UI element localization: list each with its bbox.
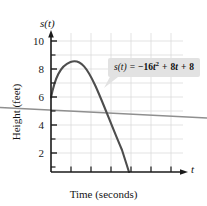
- callout-plus-one: +: [162, 62, 167, 72]
- y-axis-title: Height (feet): [10, 69, 22, 155]
- plot-canvas: [0, 0, 207, 206]
- y-tick-label-8: 8: [26, 63, 44, 75]
- y-tick-label-6: 6: [26, 91, 44, 103]
- parabola-curve: [51, 61, 129, 172]
- graph-figure: 10 8 6 4 2 s(t) Height (feet) t Time (se…: [0, 0, 207, 206]
- x-axis-arrow: [180, 169, 188, 175]
- grid-vertical: [71, 33, 171, 172]
- callout-linear-variable: t: [175, 62, 178, 72]
- equation-callout: s(t)=−16t2+8t+8: [108, 58, 200, 77]
- callout-quadratic-coefficient: −16: [138, 62, 153, 72]
- callout-equals: =: [130, 62, 135, 72]
- x-axis-ticks: [71, 167, 171, 173]
- y-tick-label-2: 2: [26, 147, 44, 159]
- y-axis-arrow: [48, 30, 54, 38]
- x-axis-title: Time (seconds): [0, 188, 207, 200]
- y-axis-major-ticks: [51, 41, 57, 153]
- callout-plus-two: +: [181, 62, 186, 72]
- callout-quadratic-exponent: 2: [156, 60, 160, 68]
- x-axis-variable-label: t: [191, 163, 194, 175]
- callout-function-name: s(t): [114, 62, 127, 72]
- y-tick-label-4: 4: [26, 119, 44, 131]
- y-tick-label-10: 10: [26, 35, 44, 47]
- y-axis-variable-label: s(t): [40, 17, 55, 29]
- reference-line: [0, 108, 207, 119]
- callout-constant: 8: [189, 62, 194, 72]
